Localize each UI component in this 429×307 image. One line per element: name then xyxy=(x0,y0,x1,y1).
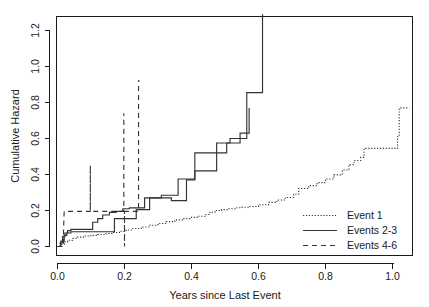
x-tick-label: 0.4 xyxy=(184,270,199,282)
x-tick-label: 0.6 xyxy=(251,270,266,282)
y-tick-label: 0.4 xyxy=(29,167,41,182)
x-axis-title: Years since Last Event xyxy=(169,289,281,301)
y-tick-label: 0.0 xyxy=(29,239,41,254)
y-tick-label: 1.2 xyxy=(29,23,41,38)
legend-label-events-4-6: Events 4-6 xyxy=(347,239,397,251)
legend-label-event-1: Event 1 xyxy=(347,209,383,221)
y-tick-label: 1.0 xyxy=(29,59,41,74)
series-events-4-6 xyxy=(58,81,140,247)
x-tick-label: 1.0 xyxy=(385,270,400,282)
y-axis-title: Cumulative Hazard xyxy=(9,89,21,183)
x-tick-marks xyxy=(58,264,393,269)
x-tick-label: 0.2 xyxy=(117,270,132,282)
legend-label-events-2-3: Events 2-3 xyxy=(347,224,397,236)
y-tick-label: 0.6 xyxy=(29,131,41,146)
x-tick-labels: 0.0 0.2 0.4 0.6 0.8 1.0 xyxy=(50,270,400,282)
y-tick-labels: 0.0 0.2 0.4 0.6 0.8 1.0 1.2 xyxy=(29,23,41,254)
x-tick-label: 0.0 xyxy=(50,270,65,282)
legend: Event 1 Events 2-3 Events 4-6 xyxy=(303,209,397,251)
plot-canvas: 0.0 0.2 0.4 0.6 0.8 1.0 0.0 0.2 0.4 0.6 … xyxy=(0,0,429,307)
y-tick-marks xyxy=(45,31,50,247)
x-tick-label: 0.8 xyxy=(318,270,333,282)
cumulative-hazard-figure: 0.0 0.2 0.4 0.6 0.8 1.0 0.0 0.2 0.4 0.6 … xyxy=(0,0,429,307)
y-tick-label: 0.8 xyxy=(29,95,41,110)
y-tick-label: 0.2 xyxy=(29,203,41,218)
